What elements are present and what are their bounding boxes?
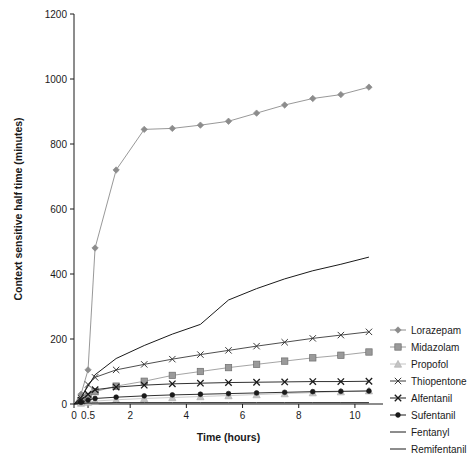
y-tick-label: 1200 [45, 9, 68, 20]
y-tick-label: 600 [50, 204, 67, 215]
data-point-marker [254, 391, 259, 396]
data-point-marker [85, 367, 91, 373]
data-point-marker [197, 368, 203, 374]
line-chart: 02004006008001000120002468100.5Time (hou… [0, 0, 475, 458]
data-point-marker [114, 395, 119, 400]
x-tick-label: 8 [296, 410, 302, 421]
data-point-marker [338, 389, 343, 394]
data-point-marker [79, 400, 84, 405]
data-point-marker [169, 125, 175, 131]
data-point-marker [225, 118, 231, 124]
legend-item-remifentanil[interactable]: Remifentanil [390, 444, 467, 455]
data-point-marker [226, 391, 231, 396]
series-thiopentone [74, 329, 372, 404]
data-point-marker [310, 389, 315, 394]
legend-label: Propofol [411, 359, 448, 370]
data-point-marker [338, 352, 344, 358]
x-tick-label: 6 [240, 410, 246, 421]
legend-item-midazolam[interactable]: Midazolam [390, 342, 459, 353]
y-tick-label: 200 [50, 334, 67, 345]
data-point-marker [253, 110, 259, 116]
series-lorazepam [74, 84, 372, 404]
legend-item-fentanyl[interactable]: Fentanyl [390, 427, 449, 438]
series-alfentanil [74, 378, 372, 404]
legend-item-lorazepam[interactable]: Lorazepam [390, 325, 461, 336]
data-point-marker [366, 349, 372, 355]
data-point-marker [198, 392, 203, 397]
data-point-marker [281, 358, 287, 364]
data-point-marker [253, 361, 259, 367]
data-point-marker [366, 84, 372, 90]
data-point-marker [113, 167, 119, 173]
data-point-marker [142, 393, 147, 398]
y-tick-label: 800 [50, 139, 67, 150]
y-tick-label: 400 [50, 269, 67, 280]
x-tick-label: 0.5 [81, 410, 95, 421]
y-tick-label: 1000 [45, 74, 68, 85]
data-point-marker [225, 364, 231, 370]
y-axis-title: Context sensitive half time (minutes) [12, 117, 24, 300]
legend-label: Lorazepam [411, 325, 461, 336]
legend-label: Alfentanil [411, 393, 452, 404]
data-point-marker [169, 372, 175, 378]
x-tick-label: 10 [349, 410, 361, 421]
legend-item-thiopentone[interactable]: Thiopentone [390, 376, 467, 387]
x-axis-title: Time (hours) [197, 431, 260, 443]
data-point-marker [141, 126, 147, 132]
chart-container: 02004006008001000120002468100.5Time (hou… [0, 0, 475, 458]
data-point-marker [282, 390, 287, 395]
legend-item-sufentanil[interactable]: Sufentanil [390, 410, 455, 421]
legend-label: Fentanyl [411, 427, 449, 438]
legend-label: Thiopentone [411, 376, 467, 387]
data-point-marker [396, 413, 401, 418]
x-tick-label: 4 [184, 410, 190, 421]
data-point-marker [197, 122, 203, 128]
data-point-marker [310, 355, 316, 361]
data-point-marker [93, 396, 98, 401]
data-point-marker [92, 245, 98, 251]
data-point-marker [338, 91, 344, 97]
data-point-marker [395, 327, 401, 333]
data-point-marker [170, 393, 175, 398]
legend-label: Remifentanil [411, 444, 467, 455]
x-tick-label: 0 [71, 410, 77, 421]
legend-item-propofol[interactable]: Propofol [390, 359, 448, 370]
x-tick-label: 2 [127, 410, 133, 421]
data-point-marker [367, 389, 372, 394]
data-point-marker [395, 344, 401, 350]
legend-label: Sufentanil [411, 410, 455, 421]
legend-item-alfentanil[interactable]: Alfentanil [390, 393, 452, 404]
data-point-marker [113, 383, 119, 389]
y-tick-label: 0 [61, 399, 67, 410]
legend-label: Midazolam [411, 342, 459, 353]
data-point-marker [310, 95, 316, 101]
data-point-marker [281, 102, 287, 108]
data-point-marker [86, 398, 91, 403]
